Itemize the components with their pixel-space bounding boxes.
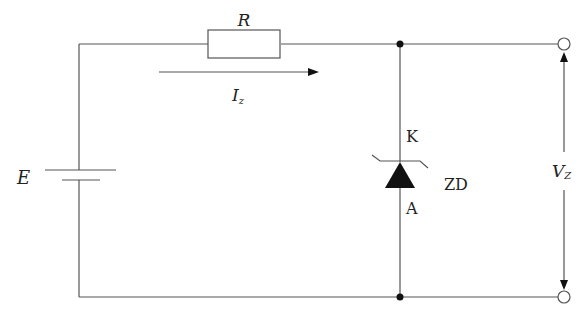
resistor: [208, 30, 280, 58]
voltage-label: VZ: [552, 161, 572, 181]
cathode-label: K: [406, 127, 419, 146]
output-terminal-bottom: [558, 291, 570, 303]
output-terminal-top: [558, 38, 570, 50]
circuit-diagram: R Iz E K A ZD VZ: [0, 0, 583, 322]
current-label: Iz: [231, 85, 245, 106]
voltage-arrowhead-down-icon: [560, 280, 568, 290]
zener-diode-icon: [385, 162, 415, 188]
diode-label: ZD: [444, 175, 468, 194]
anode-label: A: [405, 199, 418, 218]
source-label: E: [16, 167, 30, 188]
current-arrowhead-icon: [308, 68, 319, 76]
voltage-arrowhead-up-icon: [560, 52, 568, 62]
junction-node-top: [397, 41, 404, 48]
junction-node-bottom: [397, 294, 404, 301]
resistor-label: R: [237, 10, 251, 30]
